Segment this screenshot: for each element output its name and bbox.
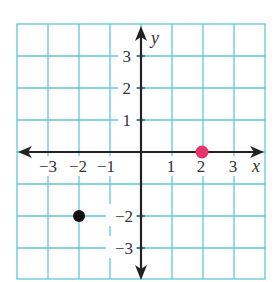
y-tick-1: 1 [123,111,132,130]
axes [26,32,256,272]
x-tick-neg1: −1 [97,157,115,176]
x-tick-neg2: −2 [69,157,87,176]
x-tick-1: 1 [167,157,176,176]
point-2-0 [196,146,209,159]
x-axis-label: x [251,156,260,176]
x-tick-neg3: −3 [39,157,57,176]
coordinate-plane: −3 −2 −1 1 2 3 x 3 2 1 −2 −3 y [0,0,278,282]
point-neg2-neg2 [73,210,85,222]
y-axis-label: y [149,28,159,48]
y-tick-3: 3 [123,47,132,66]
y-tick-neg3: −3 [115,239,133,258]
x-tick-2: 2 [197,157,206,176]
y-tick-2: 2 [123,79,132,98]
y-tick-neg2: −2 [115,207,133,226]
x-tick-3: 3 [229,157,238,176]
